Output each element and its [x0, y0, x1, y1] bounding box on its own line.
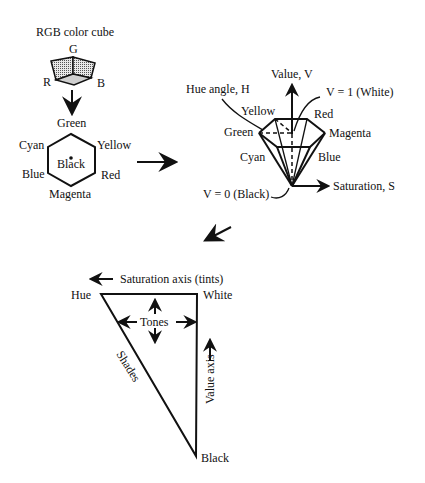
hex-label-magenta: Magenta — [49, 187, 92, 201]
triangle-label-saturation: Saturation axis (tints) — [120, 272, 223, 286]
triangle-label-shades: Shades — [113, 348, 143, 385]
hexcone-label-yellow: Yellow — [241, 104, 275, 118]
hexcone-label-saturation: Saturation, S — [333, 179, 395, 193]
hsv-color-model-diagram: RGB color cube G R B Green Cyan Yellow B… — [0, 0, 425, 483]
hexcone-label-hue-angle: Hue angle, H — [186, 82, 250, 96]
hex-label-green: Green — [57, 116, 86, 130]
hex-label-cyan: Cyan — [19, 138, 44, 152]
hexcone-label-magenta: Magenta — [329, 126, 372, 140]
hsv-hexcone: Value, V Hue angle, H V = 1 (White) Yell… — [186, 67, 395, 201]
cone-edge — [275, 119, 292, 186]
hexcone-label-value: Value, V — [271, 67, 313, 81]
tints-shades-tones-triangle: Saturation axis (tints) Hue White Tones … — [71, 272, 232, 465]
rgb-color-cube: RGB color cube G R B — [36, 25, 114, 113]
cube-label-g: G — [69, 42, 78, 56]
hex-label-yellow: Yellow — [97, 138, 131, 152]
hexcone-label-green: Green — [224, 125, 253, 139]
hex-label-red: Red — [101, 168, 120, 182]
triangle-label-black: Black — [201, 451, 229, 465]
rgb-cube-title: RGB color cube — [36, 25, 114, 39]
arrow-down-left-icon — [206, 227, 231, 240]
triangle-label-white: White — [203, 288, 232, 302]
triangle-label-tones: Tones — [140, 315, 169, 329]
triangle-label-value-axis: Value axis — [203, 354, 217, 404]
hexcone-label-blue: Blue — [318, 150, 341, 164]
cube-label-r: R — [43, 75, 51, 89]
hexcone-label-white: V = 1 (White) — [326, 85, 394, 99]
hue-hexagon: Green Cyan Yellow Black Blue Red Magenta — [19, 116, 131, 201]
hex-label-black: Black — [57, 157, 85, 171]
hex-label-blue: Blue — [22, 167, 45, 181]
triangle-label-hue: Hue — [71, 288, 91, 302]
hexcone-label-red: Red — [314, 107, 333, 121]
black-leader — [271, 188, 289, 198]
cube-label-b: B — [97, 76, 105, 90]
hexcone-label-black: V = 0 (Black) — [203, 187, 269, 201]
hexcone-label-cyan: Cyan — [240, 150, 265, 164]
